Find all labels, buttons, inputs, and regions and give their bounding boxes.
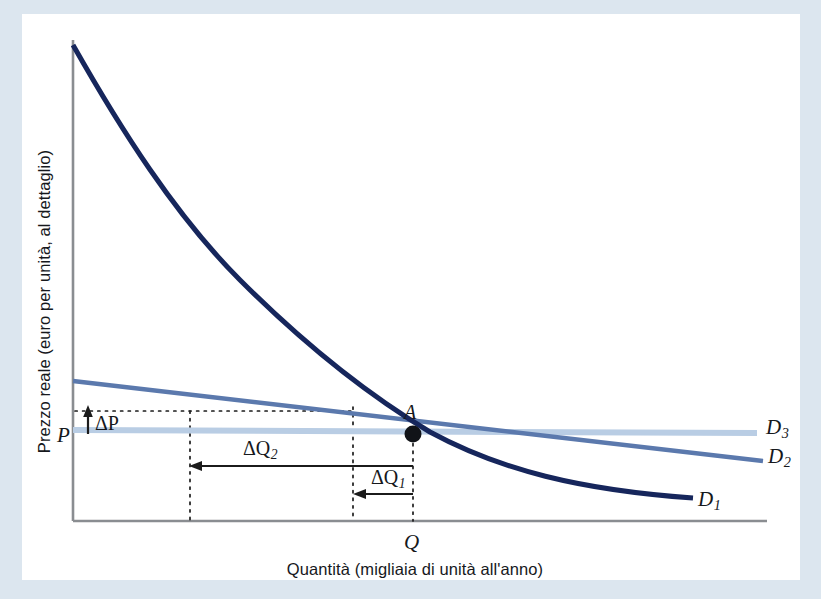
point-a-label: A — [404, 401, 416, 424]
curve-d2-text: D — [768, 444, 783, 468]
delta-q1-label: ΔQ1 — [371, 466, 405, 489]
delta-p-label: ΔP — [95, 412, 119, 435]
price-level-label: P — [57, 423, 70, 448]
y-axis-label: Prezzo reale (euro per unità, al dettagl… — [35, 137, 54, 467]
delta-q1-text: ΔQ — [371, 466, 398, 488]
curve-d2-subscript: 2 — [784, 454, 791, 470]
curve-d1-subscript: 1 — [714, 497, 721, 513]
delta-q2-label: ΔQ2 — [243, 437, 277, 460]
delta-q1-subscript: 1 — [399, 476, 406, 491]
curve-d1-label: D1 — [698, 487, 720, 512]
curve-d3-label: D3 — [766, 415, 788, 440]
curve-d3-text: D — [766, 415, 781, 439]
curve-d2 — [73, 381, 763, 461]
curve-d1-text: D — [698, 487, 713, 511]
delta-q2-text: ΔQ — [243, 437, 270, 459]
point-a-marker — [405, 426, 422, 443]
delta-p-text: ΔP — [95, 412, 119, 434]
curve-d2-label: D2 — [768, 444, 790, 469]
x-axis-label: Quantità (migliaia di unità all'anno) — [150, 560, 680, 579]
quantity-level-label: Q — [404, 530, 419, 555]
figure-container: Prezzo reale (euro per unità, al dettagl… — [0, 0, 821, 599]
delta-q2-subscript: 2 — [271, 447, 278, 462]
curve-d3-subscript: 3 — [782, 425, 789, 441]
